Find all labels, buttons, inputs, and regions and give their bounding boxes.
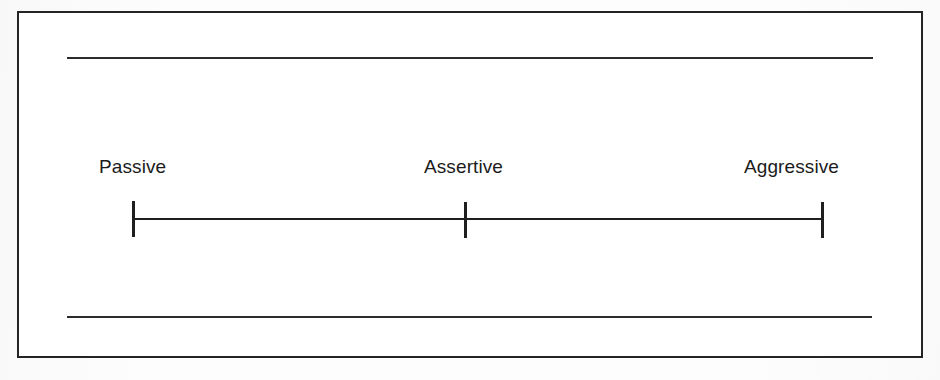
tick-passive — [132, 201, 135, 237]
tick-aggressive — [821, 202, 824, 238]
axis-line — [132, 218, 823, 220]
figure-canvas: Passive Assertive Aggressive — [0, 0, 940, 380]
tick-assertive — [464, 202, 467, 238]
continuum-scale: Passive Assertive Aggressive — [0, 0, 940, 380]
label-aggressive: Aggressive — [744, 156, 839, 178]
label-passive: Passive — [99, 156, 166, 178]
label-assertive: Assertive — [424, 156, 503, 178]
